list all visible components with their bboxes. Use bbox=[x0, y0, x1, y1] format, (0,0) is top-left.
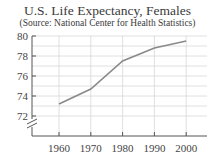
x-tick-label: 1960 bbox=[48, 142, 71, 154]
x-tick-label: 1980 bbox=[112, 142, 135, 154]
y-tick-label: 80 bbox=[17, 30, 29, 42]
y-tick-label: 74 bbox=[17, 90, 29, 102]
y-tick-label: 78 bbox=[17, 50, 29, 62]
gridlines bbox=[32, 36, 207, 136]
x-tick-label: 2000 bbox=[175, 142, 198, 154]
y-tick-label: 76 bbox=[17, 70, 29, 82]
y-tick-label: 72 bbox=[17, 110, 28, 122]
x-tick-label: 1990 bbox=[143, 142, 166, 154]
x-axis-ticks: 19601970198019902000 bbox=[48, 132, 198, 154]
line-chart: 7274767880 19601970198019902000 bbox=[0, 0, 215, 160]
y-axis-ticks: 7274767880 bbox=[17, 30, 36, 122]
x-tick-label: 1970 bbox=[80, 142, 103, 154]
